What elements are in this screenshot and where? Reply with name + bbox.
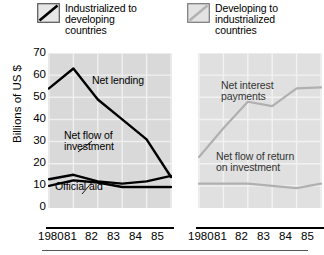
y-tick-20: 20 [33,157,46,169]
chart-industrialized-to-developing: Net lending Net flow of investment Offic… [48,53,172,227]
y-tick-70: 70 [33,47,46,59]
x-tick-right-83: 83 [257,230,270,242]
x-tick-right-85: 85 [301,230,314,242]
x-tick-right-1980: 1980 [188,230,214,242]
legend-industrialized-to-developing: Industrialized to developing countries [37,3,137,35]
annotation-net-interest-payments: Net interest payments [221,80,274,102]
x-tick-left-81: 81 [64,230,77,242]
x-tick-left-85: 85 [151,230,164,242]
x-axis-labels-left: 1980 81 82 83 84 85 [38,230,180,246]
annotation-net-flow-of-investment: Net flow of investment [64,130,114,152]
annotation-official-aid: Official aid [55,181,103,192]
y-tick-60: 60 [33,69,46,81]
x-tick-left-1980: 1980 [38,230,64,242]
x-tick-right-81: 81 [214,230,227,242]
x-tick-right-82: 82 [235,230,248,242]
x-tick-left-84: 84 [129,230,142,242]
diagonal-line-swatch-light-icon [187,3,210,23]
x-tick-left-82: 82 [85,230,98,242]
y-tick-50: 50 [33,91,46,103]
chart-developing-to-industrialized: Net interest payments Net flow of return… [198,53,322,227]
y-tick-40: 40 [33,113,46,125]
annotation-net-flow-of-return: Net flow of return on investment [216,151,294,173]
x-axis-labels-right: 1980 81 82 83 84 85 [188,230,324,246]
y-tick-10: 10 [33,179,46,191]
legend-developing-to-industrialized: Developing to industrialized countries [187,3,278,35]
plot-area-right [198,53,322,208]
y-axis-title: Billions of US $ [11,39,23,169]
annotation-net-lending: Net lending [92,75,144,86]
x-tick-left-83: 83 [107,230,120,242]
y-tick-30: 30 [33,135,46,147]
plot-svg-right [198,53,322,208]
x-axis-line-right [196,227,324,229]
chart-page: Industrialized to developing countries D… [0,0,324,255]
y-tick-0: 0 [40,201,46,213]
legend-right-label: Developing to industrialized countries [215,3,278,35]
legend-left-label: Industrialized to developing countries [65,3,137,35]
x-axis-line-left [46,227,174,229]
bottom-rule [42,250,308,251]
diagonal-line-swatch-dark-icon [37,3,60,23]
x-tick-right-84: 84 [279,230,292,242]
